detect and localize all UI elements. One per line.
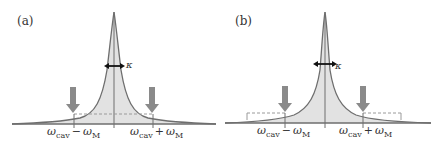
minus-operator: − [72, 125, 81, 138]
cav-subscript: cav [139, 131, 153, 140]
lower-sideband-label: ωcav−ωM [47, 125, 100, 140]
cav-subscript: cav [348, 130, 362, 139]
omega-symbol: ω [47, 125, 56, 138]
upper-sideband-label: ωcav+ωM [130, 125, 183, 140]
lower-sideband-label: ωcav−ωM [257, 124, 310, 139]
plus-operator: + [364, 124, 373, 137]
omega-symbol: ω [375, 124, 384, 137]
m-subscript: M [175, 131, 183, 140]
cav-subscript: cav [56, 131, 70, 140]
m-subscript: M [302, 130, 310, 139]
panel-label: (a) [17, 14, 34, 28]
omega-symbol: ω [293, 124, 302, 137]
plus-operator: + [155, 125, 164, 138]
panel-b: (b) κ ωcav−ωM ωcav+ωM [219, 0, 438, 147]
panel-label: (b) [235, 14, 252, 28]
omega-symbol: ω [257, 124, 266, 137]
omega-symbol: ω [339, 124, 348, 137]
left-down-arrow-icon [66, 87, 80, 113]
omega-symbol: ω [130, 125, 139, 138]
cav-subscript: cav [266, 130, 280, 139]
right-down-arrow-icon [145, 87, 159, 113]
panel-a: (a) κ ωcav−ωM ωcav+ωM [0, 0, 219, 147]
omega-symbol: ω [166, 125, 175, 138]
lorentzian-fill [225, 12, 431, 123]
minus-operator: − [282, 124, 291, 137]
left-down-arrow-icon [278, 86, 292, 112]
omega-symbol: ω [83, 125, 92, 138]
upper-sideband-label: ωcav+ωM [339, 124, 392, 139]
m-subscript: M [384, 130, 392, 139]
kappa-label: κ [335, 60, 342, 71]
kappa-label: κ [126, 59, 133, 70]
m-subscript: M [92, 131, 100, 140]
right-down-arrow-icon [356, 86, 370, 112]
